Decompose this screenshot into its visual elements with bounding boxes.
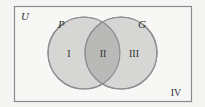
region-iii-label: III [129, 48, 139, 59]
region-iv-label: IV [171, 87, 182, 98]
region-i-label: I [67, 48, 70, 59]
set-g-label: G [138, 18, 146, 30]
universe-label: U [21, 10, 30, 22]
region-ii-label: II [100, 48, 107, 59]
set-p-label: P [57, 18, 65, 30]
venn-diagram: U P G I II III IV [0, 0, 205, 107]
